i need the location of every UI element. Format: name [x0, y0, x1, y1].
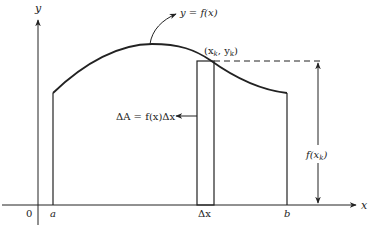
curve-label: y = f(x): [179, 7, 218, 18]
delta-a-rectangle: [197, 61, 214, 205]
point-label: (xk, yk): [204, 45, 238, 58]
area-label: ΔA = f(x)Δx: [116, 111, 176, 122]
delta-x-label: Δx: [198, 208, 211, 219]
origin-label: 0: [26, 208, 32, 219]
b-label: b: [284, 208, 290, 219]
curve-label-pointer: [150, 14, 176, 44]
curve-f-of-x: [53, 44, 287, 93]
riemann-rectangle-diagram: y x 0 a b y = f(x) Δx (xk, yk) f(xk) ΔA …: [0, 0, 370, 233]
y-axis-label: y: [34, 2, 42, 15]
a-label: a: [50, 208, 56, 219]
x-axis-label: x: [361, 199, 368, 212]
height-label: f(xk): [305, 149, 328, 162]
